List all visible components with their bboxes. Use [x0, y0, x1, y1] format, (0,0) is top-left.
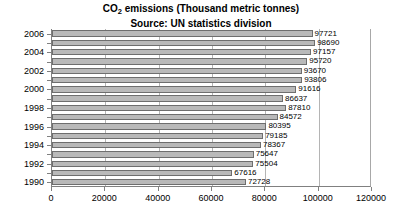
- bar-value-label: 67616: [232, 168, 256, 178]
- x-axis-label: 0: [48, 193, 53, 203]
- bar-value-label: 86637: [283, 94, 307, 104]
- bar-value-label: 95720: [307, 56, 331, 66]
- bar-value-label: 72728: [246, 177, 270, 187]
- x-axis-tick: [104, 187, 105, 191]
- x-axis-tick: [158, 187, 159, 191]
- y-axis: 199019921994199619982000200220042006: [0, 29, 51, 187]
- bar: [52, 161, 253, 167]
- bar: [52, 170, 232, 176]
- bar: [52, 179, 246, 185]
- bar-value-label: 80395: [266, 121, 290, 131]
- bar-value-label: 79185: [263, 131, 287, 141]
- bar-row: 91616: [52, 85, 370, 94]
- bar: [52, 49, 311, 55]
- bar: [52, 40, 315, 46]
- bar: [52, 58, 307, 64]
- bar-row: 75504: [52, 159, 370, 168]
- bar-value-label: 93670: [302, 66, 326, 76]
- y-axis-label: 2000: [24, 84, 44, 94]
- bar-value-label: 91616: [296, 84, 320, 94]
- bar-row: 75647: [52, 150, 370, 159]
- bar: [52, 105, 286, 111]
- bar: [52, 95, 283, 101]
- bar-value-label: 75647: [254, 149, 278, 159]
- bar-row: 84572: [52, 113, 370, 122]
- bar-row: 93806: [52, 75, 370, 84]
- y-axis-label: 2004: [24, 47, 44, 57]
- x-axis-tick: [318, 187, 319, 191]
- y-axis-label: 1994: [24, 140, 44, 150]
- bar-row: 93670: [52, 66, 370, 75]
- x-axis: 020000400006000080000100000120000: [51, 187, 371, 212]
- bar-row: 98690: [52, 38, 370, 47]
- bar-row: 95720: [52, 57, 370, 66]
- x-axis-tick: [264, 187, 265, 191]
- bar: [52, 133, 263, 139]
- x-axis-tick: [51, 187, 52, 191]
- chart-title-rest: emissions (Thousand metric tonnes): [122, 3, 299, 14]
- bar: [52, 123, 266, 129]
- chart-title-prefix: CO: [103, 3, 118, 14]
- bar-value-label: 75504: [253, 159, 277, 169]
- x-axis-label: 120000: [356, 193, 386, 203]
- bar-value-label: 78367: [261, 140, 285, 150]
- y-axis-label: 1996: [24, 122, 44, 132]
- bar-value-label: 98690: [315, 38, 339, 48]
- bar-value-label: 97157: [311, 47, 335, 57]
- chart-title: CO2 emissions (Thousand metric tonnes): [0, 3, 402, 18]
- x-axis-label: 80000: [252, 193, 277, 203]
- bar-value-label: 84572: [278, 112, 302, 122]
- bar: [52, 77, 302, 83]
- plot-area: 7272867616755047564778367791858039584572…: [51, 29, 371, 187]
- bar-value-label: 87810: [286, 103, 310, 113]
- x-axis-tick: [211, 187, 212, 191]
- bar: [52, 114, 278, 120]
- bar-row: 78367: [52, 141, 370, 150]
- bar-value-label: 93806: [302, 75, 326, 85]
- y-axis-label: 2006: [24, 29, 44, 39]
- bar-row: 86637: [52, 94, 370, 103]
- bar: [52, 142, 261, 148]
- bars-layer: 7272867616755047564778367791858039584572…: [52, 29, 370, 186]
- y-axis-label: 1990: [24, 177, 44, 187]
- x-axis-label: 20000: [92, 193, 117, 203]
- x-axis-label: 40000: [145, 193, 170, 203]
- bar: [52, 68, 302, 74]
- bar-value-label: 97721: [313, 29, 337, 39]
- bar-row: 97157: [52, 48, 370, 57]
- bar-row: 87810: [52, 103, 370, 112]
- x-axis-label: 100000: [303, 193, 333, 203]
- y-axis-label: 1992: [24, 159, 44, 169]
- y-axis-label: 1998: [24, 103, 44, 113]
- bar-row: 80395: [52, 122, 370, 131]
- bar: [52, 151, 254, 157]
- x-axis-tick: [371, 187, 372, 191]
- bar-row: 67616: [52, 168, 370, 177]
- bar-row: 79185: [52, 131, 370, 140]
- bar: [52, 86, 296, 92]
- co2-emissions-bar-chart: CO2 emissions (Thousand metric tonnes) S…: [0, 0, 402, 212]
- bar-row: 97721: [52, 29, 370, 38]
- y-axis-label: 2002: [24, 66, 44, 76]
- chart-title-block: CO2 emissions (Thousand metric tonnes) S…: [0, 3, 402, 30]
- bar: [52, 30, 313, 36]
- bar-row: 72728: [52, 178, 370, 187]
- x-axis-label: 60000: [198, 193, 223, 203]
